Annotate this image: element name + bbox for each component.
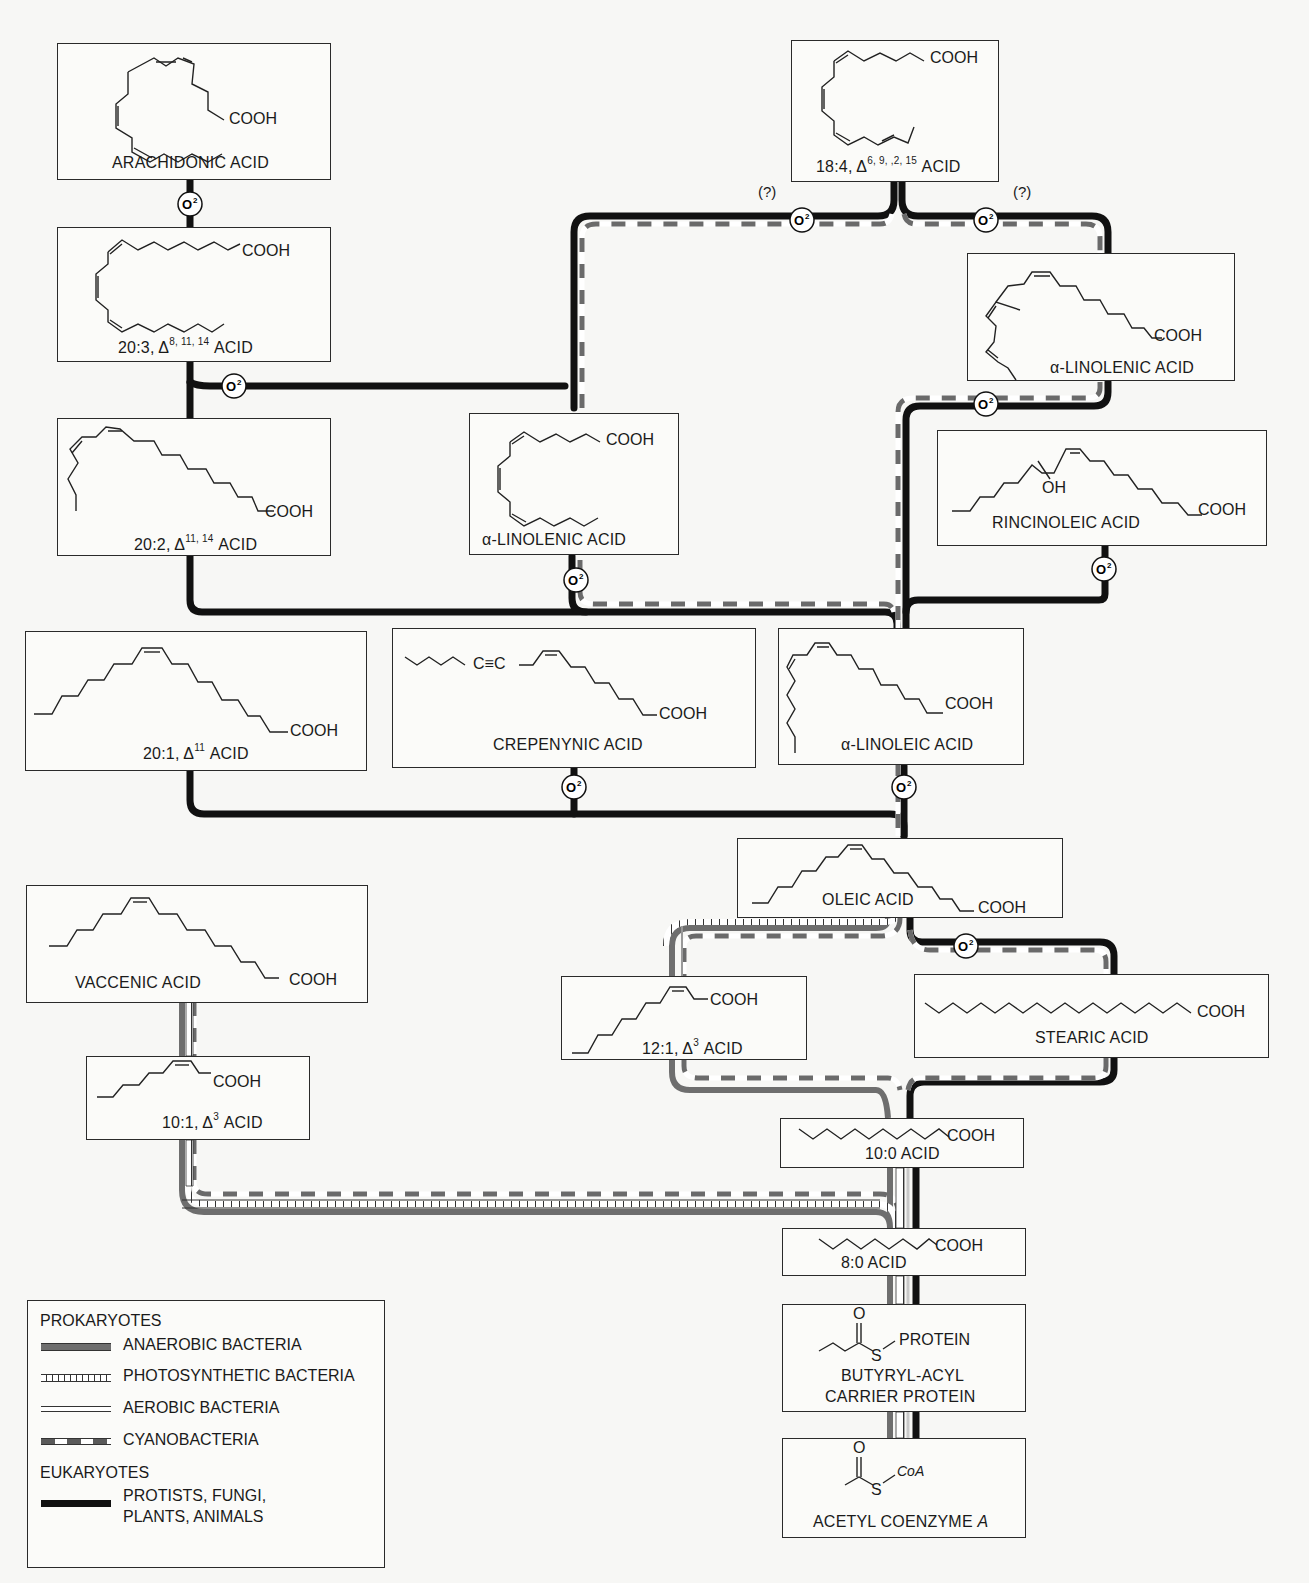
legend-swatch-aerobic [41,1406,111,1412]
carboxyl-group: COOH [290,722,338,740]
sulfur-atom: S [871,1347,882,1365]
svg-text:O: O [978,397,988,412]
carboxyl-group: COOH [710,991,758,1009]
compound-oleic-acid: COOH OLEIC ACID [737,838,1063,918]
o2-marker: O2 [974,208,998,232]
carboxyl-group: COOH [1197,1003,1245,1021]
carboxyl-group: COOH [1198,501,1246,519]
o2-marker: O2 [564,568,588,592]
compound-label: ACETYL COENZYME A [813,1513,988,1531]
compound-label: CREPENYNIC ACID [493,736,643,754]
compound-alpha-linoleic-acid: COOH α-LINOLEIC ACID [778,628,1024,765]
carboxyl-group: COOH [1154,327,1202,345]
compound-alpha-linolenic-acid-right: COOH α-LINOLENIC ACID [967,253,1235,381]
svg-text:2: 2 [969,938,974,947]
carboxyl-group: COOH [947,1127,995,1145]
hydroxyl-group: OH [1042,479,1066,497]
compound-label: 10:0 ACID [865,1145,940,1163]
compound-label: ARACHIDONIC ACID [112,154,269,172]
carboxyl-group: COOH [229,110,277,128]
carbonyl-oxygen: O [853,1439,865,1457]
svg-text:O: O [568,573,578,588]
carboxyl-group: COOH [930,49,978,67]
legend-heading-prokaryotes: PROKARYOTES [40,1312,162,1330]
compound-label-line2: CARRIER PROTEIN [825,1388,976,1406]
legend-swatch-eukaryote [41,1500,111,1507]
svg-text:O: O [896,780,906,795]
compound-label: OLEIC ACID [822,891,914,909]
compound-label: 12:1, Δ3 ACID [642,1037,743,1058]
legend-label-eukaryote-line2: PLANTS, ANIMALS [123,1508,264,1526]
compound-label: α-LINOLENIC ACID [482,531,626,549]
compound-crepenynic-acid: C≡C COOH CREPENYNIC ACID [392,628,756,768]
carboxyl-group: COOH [659,705,707,723]
svg-text:2: 2 [237,378,242,387]
uncertain-marker-right: (?) [1013,183,1031,200]
svg-text:2: 2 [989,396,994,405]
legend-label-anaerobic: ANAEROBIC BACTERIA [123,1336,302,1354]
compound-label: 20:2, Δ11, 14 ACID [134,533,257,554]
legend-label-aerobic: AEROBIC BACTERIA [123,1399,279,1417]
compound-10-1-acid: COOH 10:1, Δ3 ACID [86,1056,310,1140]
compound-label: α-LINOLENIC ACID [1050,359,1194,377]
compound-label: 20:1, Δ11 ACID [143,742,249,763]
svg-text:2: 2 [989,212,994,221]
compound-20-2-acid: COOH 20:2, Δ11, 14 ACID [57,418,331,556]
o2-marker: O2 [974,392,998,416]
legend: PROKARYOTES ANAEROBIC BACTERIA PHOTOSYNT… [27,1300,385,1568]
compound-stearic-acid: COOH STEARIC ACID [914,974,1269,1058]
carboxyl-group: COOH [606,431,654,449]
svg-text:O: O [566,780,576,795]
legend-label-photosynthetic: PHOTOSYNTHETIC BACTERIA [123,1367,355,1385]
legend-swatch-cyanobacteria [41,1438,111,1445]
compound-20-3-acid: COOH 20:3, Δ8, 11, 14 ACID [57,227,331,362]
svg-text:2: 2 [907,779,912,788]
svg-text:2: 2 [805,212,810,221]
compound-acetyl-coenzyme-a: O S CoA ACETYL COENZYME A [782,1438,1026,1538]
svg-text:O: O [226,379,236,394]
o2-marker: O2 [1092,557,1116,581]
legend-label-eukaryote-line1: PROTISTS, FUNGI, [123,1487,266,1505]
carboxyl-group: COOH [289,971,337,989]
compound-ricinoleic-acid: OH COOH RINCINOLEIC ACID [937,430,1267,546]
o2-marker: O2 [222,374,246,398]
compound-label: 20:3, Δ8, 11, 14 ACID [118,336,253,357]
compound-label: α-LINOLEIC ACID [841,736,973,754]
carboxyl-group: COOH [945,695,993,713]
svg-text:2: 2 [193,196,198,205]
compound-label: RINCINOLEIC ACID [992,514,1140,532]
legend-label-cyanobacteria: CYANOBACTERIA [123,1431,259,1449]
compound-label: 8:0 ACID [841,1254,907,1272]
compound-label-line1: BUTYRYL-ACYL [841,1367,964,1385]
triple-bond-group: C≡C [473,655,505,673]
o2-marker: O2 [892,775,916,799]
protein-group: PROTEIN [899,1331,970,1349]
carboxyl-group: COOH [242,242,290,260]
compound-20-1-acid: COOH 20:1, Δ11 ACID [25,631,367,771]
svg-text:O: O [794,213,804,228]
o2-marker: O2 [562,775,586,799]
svg-text:2: 2 [577,779,582,788]
compound-label: 10:1, Δ3 ACID [162,1111,263,1132]
compound-vaccenic-acid: COOH VACCENIC ACID [26,885,368,1003]
coa-group: CoA [897,1463,924,1479]
carboxyl-group: COOH [935,1237,983,1255]
compound-butyryl-acyl-carrier-protein: O S PROTEIN BUTYRYL-ACYL CARRIER PROTEIN [782,1304,1026,1412]
legend-swatch-photosynthetic [41,1374,111,1382]
compound-alpha-linolenic-acid-center: COOH α-LINOLENIC ACID [469,413,679,555]
legend-heading-eukaryotes: EUKARYOTES [40,1464,149,1482]
o2-marker: O2 [954,934,978,958]
svg-text:O: O [958,939,968,954]
svg-text:O: O [182,197,192,212]
uncertain-marker-left: (?) [758,183,776,200]
compound-18-4-acid: COOH 18:4, Δ6, 9, ,2, 15 ACID [791,40,999,182]
o2-marker: O2 [790,208,814,232]
compound-arachidonic-acid: COOH ARACHIDONIC ACID [57,43,331,180]
svg-text:2: 2 [1107,561,1112,570]
compound-8-0-acid: COOH 8:0 ACID [782,1228,1026,1276]
compound-12-1-acid: COOH 12:1, Δ3 ACID [561,976,807,1060]
o2-marker: O2 [178,192,202,216]
legend-swatch-anaerobic [41,1343,111,1351]
carbonyl-oxygen: O [853,1305,865,1323]
compound-label: 18:4, Δ6, 9, ,2, 15 ACID [816,155,961,176]
